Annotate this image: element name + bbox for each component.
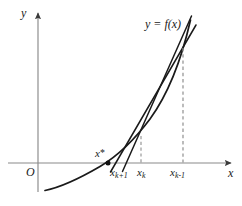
tick-label-xkm1-sub: k-1 bbox=[175, 171, 185, 180]
tick-label-xk: xk bbox=[137, 167, 145, 180]
root-label: x* bbox=[95, 148, 105, 159]
x-axis-label: x bbox=[228, 167, 233, 179]
tick-label-xk-sub: k bbox=[142, 171, 146, 180]
tick-label-xkm1: xk-1 bbox=[170, 167, 185, 180]
root-label-star: * bbox=[100, 147, 105, 158]
origin-label: O bbox=[26, 166, 35, 178]
newton-method-figure: y x O x* xk+1 xk xk-1 y = f(x) bbox=[0, 0, 242, 206]
function-curve bbox=[45, 20, 191, 191]
y-axis-label: y bbox=[21, 7, 26, 19]
tick-label-xkp1: xk+1 bbox=[110, 167, 128, 180]
root-marker-dot bbox=[106, 161, 111, 166]
secant-line bbox=[123, 16, 192, 172]
curve-label: y = f(x) bbox=[145, 18, 181, 30]
tick-label-xkp1-sub: k+1 bbox=[115, 171, 128, 180]
